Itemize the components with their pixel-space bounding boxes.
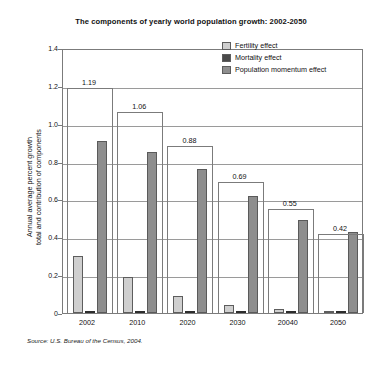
chart-figure: The components of yearly world populatio… <box>0 0 382 365</box>
y-tick-mark <box>58 314 62 315</box>
y-tick-label: 1.2 <box>18 83 58 90</box>
y-tick-label: 0 <box>18 310 58 317</box>
x-tick-label: 2050 <box>313 318 363 327</box>
total-bracket <box>218 182 264 313</box>
y-tick-label: 1.4 <box>18 45 58 52</box>
total-value-label: 1.06 <box>110 102 168 111</box>
total-bracket <box>117 112 163 313</box>
legend-item: Fertility effect <box>222 40 344 51</box>
chart-legend: Fertility effectMortality effectPopulati… <box>222 40 344 76</box>
x-tick-label: 20040 <box>263 318 313 327</box>
x-tick-label: 2002 <box>62 318 112 327</box>
total-value-label: 0.42 <box>311 224 369 233</box>
total-bracket <box>318 234 364 314</box>
y-tick-label: 0.2 <box>18 272 58 279</box>
y-tick-mark <box>58 49 62 50</box>
legend-label: Population momentum effect <box>235 65 326 74</box>
source-note: Source: U.S. Bureau of the Census, 2004. <box>27 337 143 344</box>
y-tick-mark <box>58 200 62 201</box>
total-value-label: 0.69 <box>211 172 269 181</box>
total-value-label: 0.88 <box>160 136 218 145</box>
legend-label: Fertility effect <box>235 41 278 50</box>
x-tick-label: 2020 <box>162 318 212 327</box>
y-tick-mark <box>58 87 62 88</box>
legend-item: Mortality effect <box>222 52 344 63</box>
plot-inner <box>63 50 362 313</box>
y-tick-label: 0.4 <box>18 234 58 241</box>
y-tick-mark <box>58 276 62 277</box>
y-tick-label: 0.6 <box>18 196 58 203</box>
y-axis-label-line-1: Annual average percent growth <box>25 67 34 307</box>
legend-label: Mortality effect <box>235 53 282 62</box>
x-tick-label: 2010 <box>112 318 162 327</box>
x-tick-label: 2030 <box>213 318 263 327</box>
y-axis-label: Annual average percent growth total and … <box>25 67 43 307</box>
y-tick-label: 0.8 <box>18 159 58 166</box>
legend-swatch-icon <box>222 42 231 50</box>
total-value-label: 1.19 <box>60 78 118 87</box>
legend-swatch-icon <box>222 54 231 62</box>
legend-item: Population momentum effect <box>222 64 344 75</box>
y-tick-mark <box>58 163 62 164</box>
y-axis-label-line-2: total and contribution of components <box>34 67 43 307</box>
total-bracket <box>268 209 314 313</box>
y-tick-mark <box>58 125 62 126</box>
total-bracket <box>67 88 113 313</box>
total-bracket <box>167 146 213 313</box>
total-value-label: 0.55 <box>261 199 319 208</box>
y-tick-label: 1.0 <box>18 121 58 128</box>
plot-area <box>62 49 363 314</box>
chart-title: The components of yearly world populatio… <box>0 17 382 26</box>
legend-swatch-icon <box>222 66 231 74</box>
y-tick-mark <box>58 238 62 239</box>
